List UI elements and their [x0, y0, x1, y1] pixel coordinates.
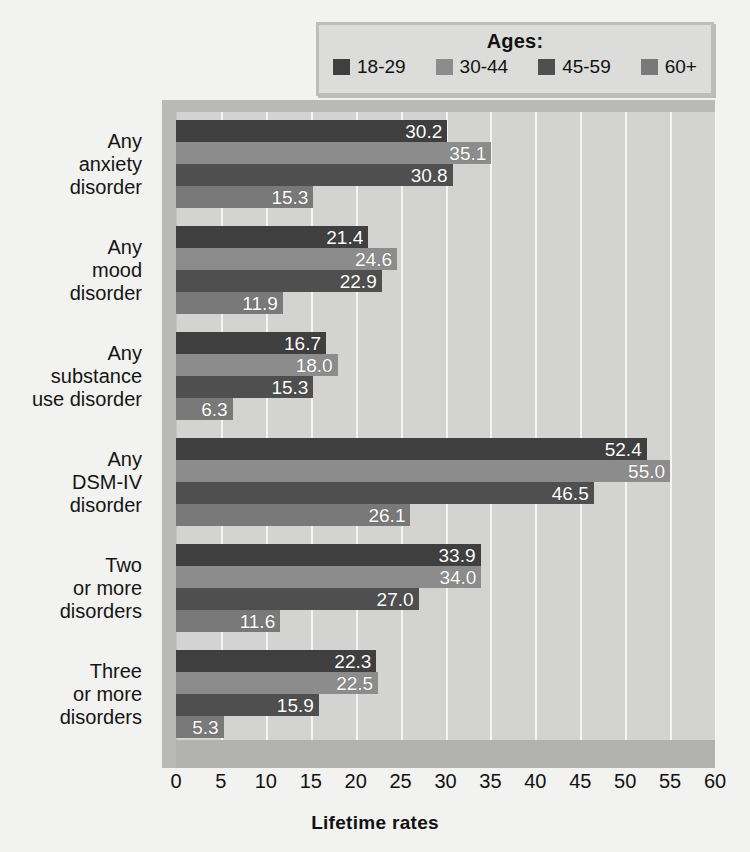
category-label-line: or more — [0, 683, 142, 706]
bar-30-44[interactable]: 34.0 — [176, 566, 481, 588]
gridline-60 — [715, 112, 717, 740]
bar-30-44[interactable]: 24.6 — [176, 248, 397, 270]
bar-value-label: 22.3 — [334, 652, 376, 671]
category-label: AnyDSM-IVdisorder — [0, 448, 142, 517]
category-label-line: disorders — [0, 706, 142, 729]
bar-30-44[interactable]: 35.1 — [176, 142, 491, 164]
category-label-line: disorder — [0, 494, 142, 517]
legend-title: Ages: — [319, 31, 711, 51]
bar-value-label: 6.3 — [201, 400, 232, 419]
category-label-line: DSM-IV — [0, 471, 142, 494]
legend-label: 45-59 — [562, 57, 611, 76]
bar-group: 22.322.515.95.3 — [176, 650, 715, 738]
bar-row: 34.0 — [176, 566, 715, 588]
bar-row: 26.1 — [176, 504, 715, 526]
category-label: Anysubstanceuse disorder — [0, 342, 142, 411]
bar-60-plus[interactable]: 11.6 — [176, 610, 280, 632]
legend-label: 30-44 — [460, 57, 509, 76]
bar-value-label: 26.1 — [368, 506, 410, 525]
legend-item-18-29: 18-29 — [333, 57, 406, 76]
category-label-line: substance — [0, 365, 142, 388]
category-label-line: disorder — [0, 176, 142, 199]
bar-value-label: 30.2 — [405, 122, 447, 141]
plot-frame: 30.235.130.815.321.424.622.911.916.718.0… — [162, 100, 715, 768]
chart-page: Ages: 18-2930-4445-5960+ Anyanxietydisor… — [0, 0, 750, 852]
legend-items: 18-2930-4445-5960+ — [319, 51, 711, 76]
x-axis-title: Lifetime rates — [0, 812, 750, 834]
bar-60-plus[interactable]: 26.1 — [176, 504, 410, 526]
legend-item-60-plus: 60+ — [641, 57, 697, 76]
bar-row: 6.3 — [176, 398, 715, 420]
bar-row: 46.5 — [176, 482, 715, 504]
plot-area: 30.235.130.815.321.424.622.911.916.718.0… — [176, 112, 715, 740]
bar-60-plus[interactable]: 5.3 — [176, 716, 224, 738]
x-tick-label: 5 — [215, 770, 226, 792]
category-label-line: Two — [0, 554, 142, 577]
category-label-line: or more — [0, 577, 142, 600]
bar-value-label: 27.0 — [377, 590, 419, 609]
x-tick-label: 45 — [569, 770, 591, 792]
bar-18-29[interactable]: 33.9 — [176, 544, 481, 566]
bar-18-29[interactable]: 16.7 — [176, 332, 326, 354]
bar-18-29[interactable]: 52.4 — [176, 438, 647, 460]
x-tick-label: 60 — [704, 770, 726, 792]
x-tick-label: 55 — [659, 770, 681, 792]
legend-swatch-30-44 — [436, 59, 453, 75]
bar-group: 30.235.130.815.3 — [176, 120, 715, 208]
bar-45-59[interactable]: 27.0 — [176, 588, 419, 610]
bar-value-label: 11.9 — [242, 294, 283, 313]
bar-row: 52.4 — [176, 438, 715, 460]
bar-45-59[interactable]: 15.3 — [176, 376, 313, 398]
bar-row: 30.8 — [176, 164, 715, 186]
bar-18-29[interactable]: 30.2 — [176, 120, 447, 142]
bar-45-59[interactable]: 15.9 — [176, 694, 319, 716]
bar-row: 21.4 — [176, 226, 715, 248]
chart-legend: Ages: 18-2930-4445-5960+ — [316, 22, 714, 96]
category-label-line: anxiety — [0, 153, 142, 176]
bar-row: 24.6 — [176, 248, 715, 270]
legend-label: 60+ — [665, 57, 697, 76]
category-label-line: Three — [0, 660, 142, 683]
bar-60-plus[interactable]: 15.3 — [176, 186, 313, 208]
x-axis-ticks: 051015202530354045505560 — [162, 770, 715, 796]
bar-row: 33.9 — [176, 544, 715, 566]
bar-row: 27.0 — [176, 588, 715, 610]
bar-18-29[interactable]: 22.3 — [176, 650, 376, 672]
x-tick-label: 30 — [434, 770, 456, 792]
bar-30-44[interactable]: 18.0 — [176, 354, 338, 376]
bar-value-label: 22.5 — [336, 674, 378, 693]
bar-value-label: 24.6 — [355, 250, 397, 269]
bar-45-59[interactable]: 30.8 — [176, 164, 453, 186]
category-label: Twoor moredisorders — [0, 554, 142, 623]
plot-bevel-top — [162, 100, 715, 112]
bar-row: 22.3 — [176, 650, 715, 672]
bar-row: 30.2 — [176, 120, 715, 142]
bar-row: 18.0 — [176, 354, 715, 376]
category-label-line: disorder — [0, 282, 142, 305]
bar-60-plus[interactable]: 11.9 — [176, 292, 283, 314]
bar-30-44[interactable]: 22.5 — [176, 672, 378, 694]
bar-group: 33.934.027.011.6 — [176, 544, 715, 632]
bar-45-59[interactable]: 22.9 — [176, 270, 382, 292]
bar-group: 52.455.046.526.1 — [176, 438, 715, 526]
bar-value-label: 21.4 — [326, 228, 368, 247]
bar-18-29[interactable]: 21.4 — [176, 226, 368, 248]
bar-row: 15.3 — [176, 376, 715, 398]
bar-30-44[interactable]: 55.0 — [176, 460, 670, 482]
bar-value-label: 18.0 — [296, 356, 338, 375]
category-label: Threeor moredisorders — [0, 660, 142, 729]
bar-row: 15.3 — [176, 186, 715, 208]
x-tick-label: 40 — [524, 770, 546, 792]
category-axis-labels: AnyanxietydisorderAnymooddisorderAnysubs… — [0, 100, 152, 768]
bar-value-label: 34.0 — [439, 568, 481, 587]
legend-swatch-45-59 — [538, 59, 555, 75]
x-tick-label: 10 — [255, 770, 277, 792]
category-label-line: disorders — [0, 600, 142, 623]
bar-value-label: 11.6 — [240, 612, 281, 631]
plot-bevel-bottom — [176, 740, 715, 768]
bar-45-59[interactable]: 46.5 — [176, 482, 594, 504]
bar-value-label: 46.5 — [552, 484, 594, 503]
bar-60-plus[interactable]: 6.3 — [176, 398, 233, 420]
x-tick-label: 25 — [389, 770, 411, 792]
category-label: Anymooddisorder — [0, 236, 142, 305]
